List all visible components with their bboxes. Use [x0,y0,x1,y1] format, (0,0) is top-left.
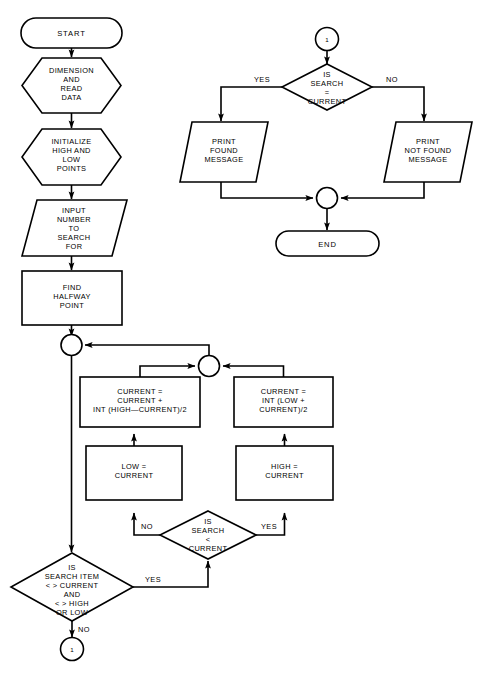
find-halfway-line1: FIND [63,283,82,292]
decision-equal-line3: = [325,88,330,97]
start-label: START [57,29,86,38]
node-input-number: INPUT NUMBER TO SEARCH FOR [22,200,127,256]
low-assign-line2: CURRENT [115,471,154,480]
edge-label-item-no: NO [78,625,90,634]
edge-label-item-yes: YES [145,575,161,584]
edge-mid-junction-to-left-junction [85,345,209,356]
dimension-read-line3: READ [61,84,83,93]
node-junction-end [317,188,338,209]
decision-less-line2: SEARCH [192,526,225,535]
node-decision-item: IS SEARCH ITEM < > CURRENT AND < > HIGH … [11,553,133,621]
node-junction-mid [199,356,220,377]
find-halfway-line3: POINT [60,301,84,310]
input-number-line5: FOR [66,242,83,251]
decision-item-line5: < > HIGH [55,599,89,608]
high-assign-line1: HIGH = [271,462,298,471]
edge-print-found-to-end-junction [221,182,313,198]
low-assign-line1: LOW = [122,462,147,471]
decision-less-line1: IS [204,517,212,526]
decision-equal-line1: IS [323,70,331,79]
initialize-line1: INITIALIZE [51,137,91,146]
current-low-line2: INT (LOW + [262,396,305,405]
input-number-line3: TO [69,224,80,233]
edge-label-equal-yes: YES [254,75,270,84]
node-low-assign: LOW = CURRENT [86,446,182,500]
node-high-assign: HIGH = CURRENT [236,446,333,500]
dimension-read-line1: DIMENSION [49,66,94,75]
print-found-line1: PRINT [212,137,236,146]
node-decision-less: IS SEARCH < CURRENT [160,511,256,559]
node-current-low: CURRENT = INT (LOW + CURRENT)/2 [234,377,333,427]
initialize-line4: POINTS [57,164,87,173]
node-connector-out: 1 [61,638,84,661]
decision-equal-line4: CURRENT [308,97,347,106]
print-not-found-line3: MESSAGE [408,155,447,164]
high-assign-line2: CURRENT [265,471,304,480]
node-dimension-read: DIMENSION AND READ DATA [22,58,121,113]
current-high-line1: CURRENT = [117,387,163,396]
edge-label-equal-no: NO [386,75,398,84]
node-initialize: INITIALIZE HIGH AND LOW POINTS [22,129,121,185]
print-found-line2: FOUND [210,146,238,155]
decision-less-line3: < [206,535,211,544]
connector-out-label: 1 [70,646,74,653]
decision-equal-line2: SEARCH [311,79,344,88]
decision-less-line4: CURRENT [189,544,228,553]
current-low-line1: CURRENT = [261,387,307,396]
input-number-line4: SEARCH [58,233,91,242]
node-connector-in: 1 [316,28,339,51]
current-high-line2: CURRENT + [117,396,163,405]
flowchart-svg: START DIMENSION AND READ DATA INITIALIZE… [0,0,496,687]
print-found-line3: MESSAGE [204,155,243,164]
junction-left-shape [61,335,82,356]
decision-item-line4: AND [64,590,81,599]
print-not-found-line2: NOT FOUND [405,146,452,155]
initialize-line2: HIGH AND [52,146,91,155]
connector-in-label: 1 [325,36,329,43]
print-not-found-line1: PRINT [416,137,440,146]
node-start: START [21,18,122,48]
edge-current-high-to-mid-junction [140,366,195,377]
current-high-line3: INT (HIGH—CURRENT)/2 [93,405,187,414]
find-halfway-line2: HALFWAY [53,292,90,301]
node-decision-equal: IS SEARCH = CURRENT [282,64,372,110]
edge-decision-equal-yes [221,87,282,121]
edge-decision-equal-no [372,87,424,121]
edge-label-less-yes: YES [261,522,277,531]
node-find-halfway: FIND HALFWAY POINT [22,271,122,325]
node-print-found: PRINT FOUND MESSAGE [180,122,268,182]
decision-item-line2: SEARCH ITEM [45,572,99,581]
current-low-line3: CURRENT)/2 [259,405,307,414]
decision-item-line1: IS [68,563,76,572]
edge-label-less-no: NO [141,522,153,531]
node-print-not-found: PRINT NOT FOUND MESSAGE [384,122,472,182]
dimension-read-line2: AND [63,75,80,84]
edge-print-not-found-to-end-junction [341,182,424,198]
node-current-high: CURRENT = CURRENT + INT (HIGH—CURRENT)/2 [80,377,200,427]
junction-mid-shape [199,356,220,377]
node-end: END [276,231,379,256]
edge-current-low-to-mid-junction [223,366,284,377]
dimension-read-line4: DATA [61,93,81,102]
end-label: END [318,240,337,249]
input-number-line2: NUMBER [57,215,91,224]
node-junction-left [61,335,82,356]
input-number-line1: INPUT [62,206,86,215]
flowchart-canvas: START DIMENSION AND READ DATA INITIALIZE… [0,0,496,687]
decision-item-line3: < > CURRENT [46,581,99,590]
initialize-line3: LOW [63,155,81,164]
decision-item-line6: OR LOW [56,608,88,617]
junction-end-shape [317,188,338,209]
